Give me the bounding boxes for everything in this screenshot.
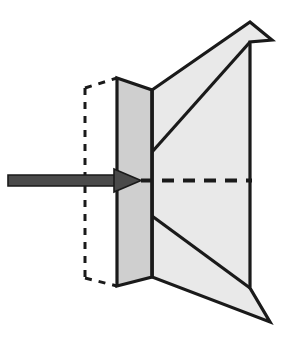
arrow-shaft [8, 175, 116, 186]
technical-diagram [0, 0, 286, 353]
figure-container [0, 0, 286, 353]
